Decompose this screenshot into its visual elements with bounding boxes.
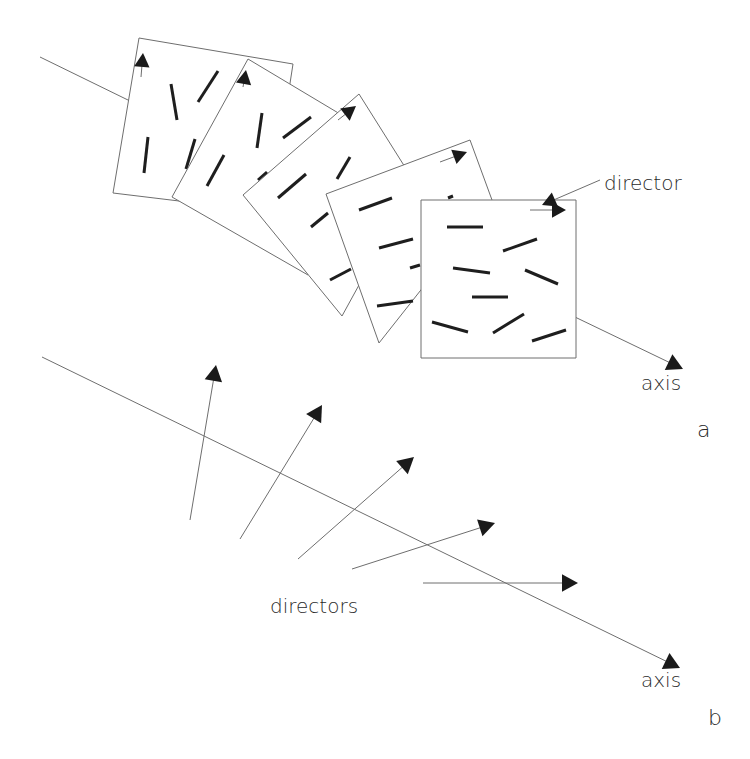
director-pointer-line xyxy=(548,180,600,203)
panel-b-label: b xyxy=(708,705,722,730)
panel-b-axis-label: axis xyxy=(641,668,681,692)
director-b-2-arrowhead-icon xyxy=(306,405,322,423)
panel-b-axis xyxy=(42,357,680,669)
panel-a-label: a xyxy=(697,417,710,442)
molecule-rod xyxy=(448,196,453,198)
director-label: director xyxy=(604,171,682,195)
director-b-3 xyxy=(298,462,408,559)
director-b-3-arrowhead-icon xyxy=(396,457,414,474)
panel-a-layers xyxy=(113,38,576,358)
panel-b: directors axis b xyxy=(42,357,722,730)
panel-b-directors xyxy=(190,365,578,592)
director-b-4 xyxy=(352,525,487,569)
axis-b-line xyxy=(42,357,673,664)
director-b-1 xyxy=(190,373,215,520)
layer-5 xyxy=(421,200,576,358)
director-b-2 xyxy=(240,412,318,539)
director-b-5-arrowhead-icon xyxy=(562,574,578,592)
axis-a-segment-0 xyxy=(40,57,130,101)
panel-a: director axis a xyxy=(40,38,710,442)
director-b-1-arrowhead-icon xyxy=(205,365,222,382)
panel-a-axis-label: axis xyxy=(641,371,681,395)
cholesteric-diagram: director axis a directors axis b xyxy=(0,0,750,759)
directors-label: directors xyxy=(270,594,358,618)
